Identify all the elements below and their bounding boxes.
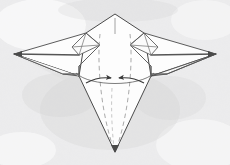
left-wing-spar xyxy=(14,54,79,55)
diagram-canvas xyxy=(0,0,230,165)
right-wing-spar xyxy=(151,54,216,55)
origami-diagram: Origami paper airplane folding step diag… xyxy=(0,0,230,165)
